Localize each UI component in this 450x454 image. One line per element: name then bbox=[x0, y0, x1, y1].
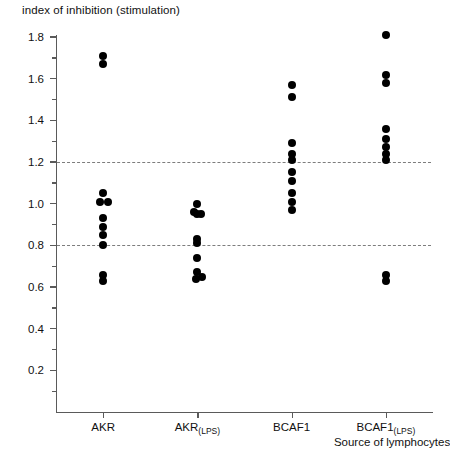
y-axis-minor-tick bbox=[52, 99, 57, 100]
x-axis-category-label: BCAF1 bbox=[273, 421, 310, 433]
x-axis-tick bbox=[103, 412, 104, 418]
data-point bbox=[192, 275, 200, 283]
x-axis-title: Source of lymphocytes bbox=[334, 436, 450, 448]
y-axis-tick bbox=[50, 78, 57, 79]
data-point bbox=[104, 198, 112, 206]
x-axis-category-label: AKR bbox=[91, 421, 115, 433]
data-point bbox=[382, 125, 390, 133]
y-axis-tick-label: 1.4 bbox=[0, 114, 44, 126]
data-point bbox=[288, 168, 296, 176]
data-point bbox=[99, 231, 107, 239]
data-point bbox=[99, 189, 107, 197]
data-point bbox=[382, 277, 390, 285]
data-point bbox=[288, 198, 296, 206]
y-axis-title: index of inhibition (stimulation) bbox=[22, 4, 180, 16]
x-axis-tick bbox=[386, 412, 387, 418]
x-axis-tick bbox=[292, 412, 293, 418]
x-axis-category-label: AKR(LPS) bbox=[175, 421, 220, 433]
data-point bbox=[193, 200, 201, 208]
y-axis-tick bbox=[50, 286, 57, 287]
y-axis-tick bbox=[50, 370, 57, 371]
data-point bbox=[99, 277, 107, 285]
data-point bbox=[288, 206, 296, 214]
reference-line bbox=[57, 245, 431, 246]
x-axis-tick bbox=[197, 412, 198, 418]
y-axis-tick-label: 0.4 bbox=[0, 323, 44, 335]
y-axis-tick-label: 1.2 bbox=[0, 156, 44, 168]
y-axis-tick bbox=[50, 328, 57, 329]
data-point bbox=[288, 139, 296, 147]
data-point bbox=[288, 93, 296, 101]
y-axis-tick bbox=[50, 120, 57, 121]
data-point bbox=[96, 198, 104, 206]
y-axis-tick-label: 1.6 bbox=[0, 73, 44, 85]
data-point bbox=[288, 81, 296, 89]
data-point bbox=[99, 223, 107, 231]
y-axis-minor-tick bbox=[52, 57, 57, 58]
data-point bbox=[288, 156, 296, 164]
y-axis-minor-tick bbox=[52, 224, 57, 225]
data-point bbox=[193, 254, 201, 262]
data-point bbox=[99, 241, 107, 249]
y-axis-tick-label: 1.0 bbox=[0, 198, 44, 210]
data-point bbox=[288, 189, 296, 197]
y-axis-tick-label: 0.2 bbox=[0, 364, 44, 376]
reference-line bbox=[57, 162, 431, 163]
data-point bbox=[99, 52, 107, 60]
data-point bbox=[382, 31, 390, 39]
data-point bbox=[193, 239, 201, 247]
y-axis-minor-tick bbox=[52, 182, 57, 183]
data-point bbox=[99, 60, 107, 68]
x-axis-line bbox=[56, 412, 433, 413]
x-axis-category-label: BCAF1(LPS) bbox=[356, 421, 415, 433]
data-point bbox=[193, 210, 201, 218]
y-axis-tick-label: 0.6 bbox=[0, 281, 44, 293]
y-axis-minor-tick bbox=[52, 141, 57, 142]
y-axis-minor-tick bbox=[52, 307, 57, 308]
data-point bbox=[382, 135, 390, 143]
y-axis-minor-tick bbox=[52, 391, 57, 392]
data-point bbox=[382, 79, 390, 87]
y-axis-minor-tick bbox=[52, 349, 57, 350]
y-axis-tick bbox=[50, 245, 57, 246]
y-axis-tick bbox=[50, 161, 57, 162]
y-axis-tick-label: 0.8 bbox=[0, 239, 44, 251]
y-axis-tick bbox=[50, 203, 57, 204]
data-point bbox=[382, 156, 390, 164]
data-point bbox=[99, 214, 107, 222]
y-axis-tick-label: 1.8 bbox=[0, 31, 44, 43]
data-point bbox=[288, 177, 296, 185]
y-axis-tick bbox=[50, 36, 57, 37]
data-point bbox=[382, 71, 390, 79]
y-axis-minor-tick bbox=[52, 266, 57, 267]
